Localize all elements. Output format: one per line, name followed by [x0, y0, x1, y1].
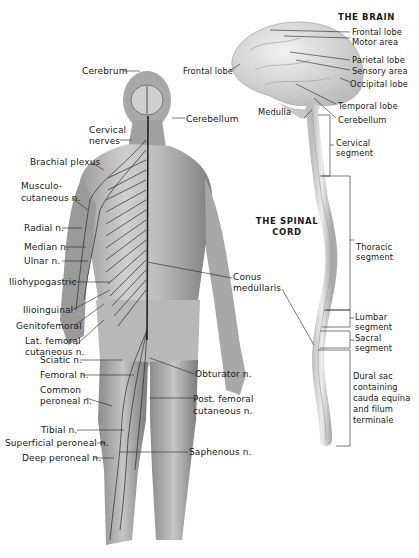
label-ilioinguinal: Ilioinguinal: [23, 305, 73, 315]
spinal-label-lumbar-line2: segment: [355, 323, 392, 333]
brain-label-motor-area: Motor area: [352, 38, 398, 48]
label-median-nerve: Median n.: [24, 242, 69, 252]
label-brachial-plexus: Brachial plexus: [30, 157, 100, 167]
label-deep-peroneal-nerve: Deep peroneal n.: [22, 453, 101, 463]
brain-label-frontal-lobe-left: Frontal lobe: [183, 67, 233, 77]
label-conus-medullaris-line2: medullaris: [233, 283, 281, 293]
label-musculocutaneous-line2: cutaneous n.: [21, 193, 80, 203]
spinal-cord-illustration: [312, 108, 331, 440]
spinal-label-thoracic-line2: segment: [356, 253, 393, 263]
label-cerebrum: Cerebrum: [82, 66, 128, 76]
label-ulnar-nerve: Ulnar n.: [24, 256, 60, 266]
label-tibial-nerve: Tibial n.: [41, 425, 77, 435]
brain-label-parietal-lobe: Parietal lobe: [352, 56, 405, 66]
label-superficial-peroneal-nerve: Superficial peroneal n.: [5, 438, 109, 448]
label-post-femoral-cutaneous-line2: cutaneous n.: [193, 406, 252, 416]
spinal-label-dural-sac-line4: and filum: [353, 405, 393, 415]
brain-label-temporal-lobe: Temporal lobe: [338, 102, 398, 112]
label-musculocutaneous-line1: Musculo-: [21, 181, 62, 191]
label-post-femoral-cutaneous-line1: Post. femoral: [193, 394, 254, 404]
label-cerebellum: Cerebellum: [186, 114, 239, 124]
label-conus-medullaris-line1: Conus: [233, 272, 261, 282]
label-genitofemoral: Genitofemoral: [16, 321, 82, 331]
spinal-label-dural-sac-line1: Dural sac: [353, 372, 393, 382]
brain-label-sensory-area: Sensory area: [352, 67, 408, 77]
spinal-label-dural-sac-line3: cauda equina: [353, 394, 410, 404]
brain-label-medulla: Medulla: [258, 108, 291, 118]
label-radial-nerve: Radial n.: [24, 223, 64, 233]
brain-title: THE BRAIN: [338, 12, 395, 23]
brain-label-occipital-lobe: Occipital lobe: [350, 80, 408, 90]
label-saphenous-nerve: Saphenous n.: [189, 447, 251, 457]
spinal-label-cervical-line2: segment: [336, 149, 373, 159]
label-sciatic-nerve: Sciatic n.: [40, 355, 82, 365]
spinal-label-dural-sac-line5: terminale: [353, 416, 394, 426]
spinal-cord-title-line1: THE SPINAL: [247, 216, 327, 227]
human-figure: [60, 71, 246, 545]
spinal-cord-title-line2: CORD: [247, 227, 327, 238]
label-iliohypogastric: Iliohypogastric: [9, 277, 77, 287]
brain-label-cerebellum: Cerebellum: [338, 116, 387, 126]
spinal-label-sacral-line2: segment: [355, 344, 392, 354]
label-cervical-nerves-line2: nerves: [89, 136, 120, 146]
label-common-peroneal-line1: Common: [40, 385, 81, 395]
spinal-label-dural-sac-line2: containing: [353, 383, 398, 393]
label-common-peroneal-line2: peroneal n.: [40, 396, 92, 406]
label-femoral-nerve: Femoral n.: [40, 370, 89, 380]
label-cervical-nerves-line1: Cervical: [89, 125, 126, 135]
label-lat-femoral-cutaneous-line1: Lat. femoral: [25, 336, 81, 346]
label-obturator-nerve: Obturator n.: [195, 369, 252, 379]
